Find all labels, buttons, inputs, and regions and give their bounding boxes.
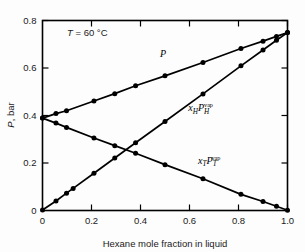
data-point-marker [112,143,117,148]
data-point-marker [238,192,243,197]
y-axis-title-unit: , bar [5,102,16,121]
data-point-marker [285,30,290,35]
data-point-marker [200,60,205,65]
x-tick-label: 0.6 [183,215,196,226]
y-tick-label: 0.4 [23,110,36,121]
chart-background [0,0,305,252]
data-point-marker [238,46,243,51]
data-point-marker [285,208,290,213]
annotations-layer: T = 60 °C [67,27,108,38]
data-point-marker [91,171,96,176]
y-axis-title: P, bar [5,102,16,127]
y-tick-label: 0.6 [23,62,36,73]
data-point-marker [261,39,266,44]
x-tick-label: 0.8 [232,215,245,226]
svg-text:P, bar: P, bar [5,102,16,127]
data-point-marker [261,199,266,204]
data-point-marker [64,191,69,196]
temperature-annotation: T = 60 °C [67,27,108,38]
y-tick-label: 0.2 [23,157,36,168]
data-point-marker [53,199,58,204]
data-point-marker [133,140,138,145]
data-point-marker [133,151,138,156]
data-point-marker [112,91,117,96]
data-point-marker [163,73,168,78]
data-point-marker [71,186,76,191]
data-point-marker [53,111,58,116]
y-tick-label: 0.8 [23,15,36,26]
x-tick-label: 0 [40,215,45,226]
data-point-marker [91,99,96,104]
data-point-marker [40,116,45,121]
data-point-marker [64,108,69,113]
x-tick-label: 1.0 [281,215,294,226]
x-tick-label: 0.4 [134,215,147,226]
series-label: P [159,48,166,59]
data-point-marker [200,176,205,181]
data-point-marker [53,121,58,126]
x-tick-label: 0.2 [85,215,98,226]
x-axis-title: Hexane mole fraction in liquid [103,238,228,249]
data-point-marker [133,83,138,88]
data-point-marker [261,47,266,52]
data-point-marker [163,162,168,167]
data-point-marker [40,208,45,213]
pressure-composition-chart: 00.20.40.60.81.0 00.20.40.60.8 Hexane mo… [0,0,305,252]
data-point-marker [274,204,279,209]
data-point-marker [112,156,117,161]
figure-container: 00.20.40.60.81.0 00.20.40.60.8 Hexane mo… [0,0,305,252]
y-tick-label: 0 [31,205,36,216]
data-point-marker [238,63,243,68]
data-point-marker [163,119,168,124]
data-point-marker [64,125,69,130]
data-point-marker [91,136,96,141]
data-point-marker [200,91,205,96]
data-point-marker [274,38,279,43]
